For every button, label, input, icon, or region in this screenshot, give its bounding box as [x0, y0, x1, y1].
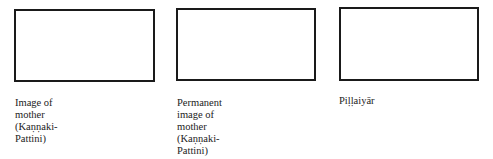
caption-permanent-image-of-mother: Permanent image of mother (Kaṇṇaki- Patt…: [177, 97, 222, 157]
image-frame-pillaiyar: [339, 7, 479, 81]
caption-image-of-mother: Image of mother (Kaṇṇaki- Pattini): [15, 97, 58, 145]
image-frame-permanent-mother: [176, 8, 316, 81]
image-frame-mother: [14, 9, 155, 82]
caption-pillaiyar: Piḷḷaiyār: [339, 95, 375, 107]
